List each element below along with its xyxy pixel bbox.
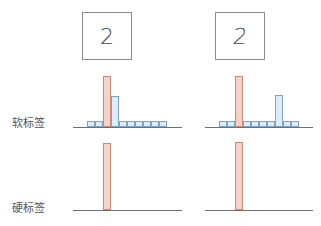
chart-axis (73, 127, 182, 128)
digit-image-right: 2 (215, 12, 265, 60)
bar-class-9 (159, 121, 167, 127)
bar-class-1 (95, 121, 103, 127)
hard-label-title: 硬标签 (12, 199, 45, 215)
bar-class-6 (135, 121, 143, 127)
bar-class-4 (251, 121, 259, 127)
digit-image-left: 2 (82, 12, 132, 60)
soft-label-title: 软标签 (12, 114, 45, 130)
chart-axis (205, 127, 313, 128)
digit-right: 2 (231, 24, 249, 49)
bar-class-9 (291, 121, 299, 127)
bar-class-2 (103, 143, 111, 210)
bar-class-5 (259, 121, 267, 127)
bar-class-2 (235, 76, 243, 127)
bar-class-3 (111, 96, 119, 127)
bar-class-5 (127, 121, 135, 127)
bar-class-2 (103, 76, 111, 127)
bar-class-4 (119, 121, 127, 127)
digit-left: 2 (100, 24, 114, 49)
bar-class-1 (227, 121, 235, 127)
bar-class-3 (243, 121, 251, 127)
bar-class-6 (267, 121, 275, 127)
bar-class-8 (151, 121, 159, 127)
bar-class-2 (235, 142, 243, 210)
chart-axis (73, 210, 182, 211)
bar-class-0 (219, 121, 227, 127)
bar-class-8 (283, 121, 291, 127)
bar-class-7 (143, 121, 151, 127)
bar-class-0 (87, 121, 95, 127)
bar-class-7 (275, 95, 283, 127)
chart-axis (205, 210, 313, 211)
